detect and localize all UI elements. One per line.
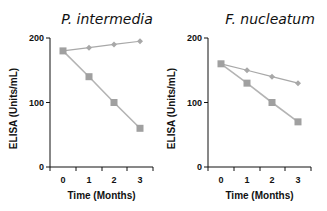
x-tick-label: 3 [295, 175, 300, 185]
x-axis-label: Time (Months) [225, 190, 293, 201]
y-tick-label: 0 [39, 162, 44, 172]
x-tick-label: 2 [269, 175, 274, 185]
chart-title: P. intermedia [61, 11, 153, 27]
x-tick-label: 0 [60, 175, 65, 185]
diamond-series-line [63, 41, 140, 51]
y-axis-label: ELISA (Units/mL) [8, 68, 19, 149]
square-series-line [221, 64, 298, 122]
y-tick-label: 100 [29, 98, 44, 108]
y-tick-label: 200 [29, 33, 44, 43]
x-tick-label: 1 [86, 175, 91, 185]
chart-f-nucleatum: F. nucleatum01002000123Time (Months)ELIS… [158, 0, 327, 211]
diamond-marker [244, 67, 250, 73]
square-series-line [63, 51, 140, 128]
square-marker [86, 73, 93, 80]
y-tick-label: 100 [187, 98, 202, 108]
square-marker [137, 125, 144, 132]
diamond-marker [295, 80, 301, 86]
diamond-marker [137, 38, 143, 44]
diamond-marker [86, 45, 92, 51]
square-marker [295, 118, 302, 125]
x-axis-label: Time (Months) [67, 190, 135, 201]
square-marker [218, 60, 225, 67]
diamond-marker [269, 74, 275, 80]
chart-title: F. nucleatum [225, 11, 315, 27]
chart-canvas: P. intermedia01002000123Time (Months)ELI… [0, 0, 165, 211]
chart-p-intermedia: P. intermedia01002000123Time (Months)ELI… [0, 0, 165, 211]
x-tick-label: 0 [218, 175, 223, 185]
x-tick-label: 2 [111, 175, 116, 185]
y-axis-label: ELISA (Units/mL) [166, 68, 177, 149]
square-marker [111, 99, 118, 106]
diamond-marker [111, 41, 117, 47]
y-tick-label: 0 [197, 162, 202, 172]
square-marker [269, 99, 276, 106]
y-tick-label: 200 [187, 33, 202, 43]
square-marker [244, 80, 251, 87]
diamond-series-line [221, 64, 298, 83]
chart-canvas: F. nucleatum01002000123Time (Months)ELIS… [158, 0, 327, 211]
square-marker [60, 47, 67, 54]
x-tick-label: 3 [137, 175, 142, 185]
x-tick-label: 1 [244, 175, 249, 185]
